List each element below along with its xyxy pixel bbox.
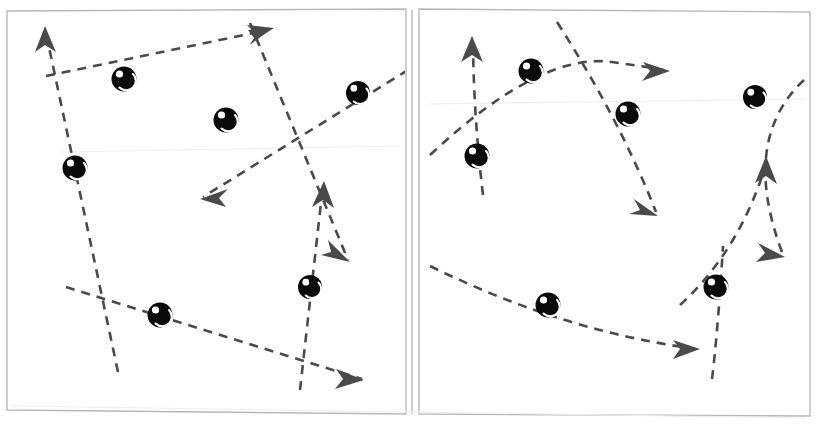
- node-r3: [743, 85, 767, 109]
- node-highlight: [350, 85, 357, 92]
- node-highlight: [152, 306, 159, 313]
- node-highlight: [469, 147, 476, 154]
- node-l4: [63, 156, 88, 181]
- node-highlight: [747, 89, 754, 96]
- node-highlight: [116, 70, 123, 77]
- node-r1: [519, 59, 544, 84]
- node-highlight: [523, 62, 530, 69]
- node-highlight: [218, 111, 225, 118]
- figure-root: [0, 0, 817, 424]
- node-l6: [298, 275, 322, 299]
- node-highlight: [708, 278, 715, 285]
- node-r4: [465, 144, 490, 169]
- node-l5: [148, 303, 173, 328]
- left-panel-frame: [7, 9, 406, 414]
- node-r2: [616, 102, 641, 127]
- right-panel-frame: [419, 9, 810, 416]
- node-l3: [346, 81, 370, 105]
- diagram-canvas: [0, 0, 817, 424]
- node-highlight: [302, 279, 309, 286]
- node-r6: [704, 275, 729, 300]
- node-r5: [536, 293, 561, 318]
- node-l2: [214, 108, 239, 133]
- node-l1: [112, 67, 137, 92]
- node-highlight: [540, 296, 547, 303]
- node-highlight: [67, 159, 74, 166]
- node-highlight: [620, 105, 627, 112]
